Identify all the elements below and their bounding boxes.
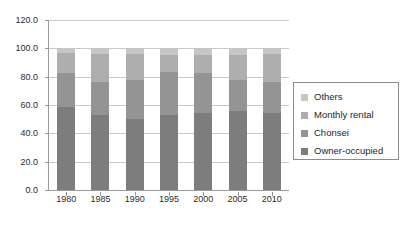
bar-segment <box>229 48 247 55</box>
bar-segment <box>126 80 144 119</box>
bar-segment <box>194 73 212 113</box>
x-axis-tick-label: 1980 <box>56 194 76 204</box>
y-axis-tick-label: 60.0 <box>20 100 38 110</box>
y-axis-tick-label: 0.0 <box>25 185 38 195</box>
bar-segment <box>126 54 144 80</box>
bar-segment <box>194 113 212 190</box>
bar-segment <box>57 107 75 190</box>
bar-2005 <box>229 48 247 190</box>
legend-swatch-icon <box>301 148 308 155</box>
bar-segment <box>160 115 178 191</box>
x-axis-tick-label: 2010 <box>262 194 282 204</box>
legend-swatch-icon <box>301 94 308 101</box>
bar-segment <box>194 48 212 55</box>
stacked-bar-chart: 0.020.040.060.080.0100.0120.0 1980198519… <box>0 0 406 238</box>
x-axis-tick-label: 1985 <box>90 194 110 204</box>
bar-segment <box>229 55 247 79</box>
chart-legend: Others Monthly rental Chonsei Owner-occu… <box>293 82 399 160</box>
bar-segment <box>91 115 109 190</box>
bar-segment <box>91 54 109 82</box>
bar-segment <box>263 54 281 82</box>
x-axis-tick-label: 1990 <box>125 194 145 204</box>
y-axis-tick-label: 100.0 <box>15 43 38 53</box>
bar-segment <box>160 72 178 114</box>
bar-segment <box>229 80 247 112</box>
bar-segment <box>194 55 212 73</box>
y-axis-tick-label: 120.0 <box>15 15 38 25</box>
y-axis-tick-label: 80.0 <box>20 72 38 82</box>
legend-item-label: Owner-occupied <box>314 146 383 156</box>
bar-1995 <box>160 48 178 190</box>
legend-item-others[interactable]: Others <box>301 88 398 106</box>
bar-1990 <box>126 48 144 190</box>
bar-2010 <box>263 48 281 190</box>
legend-swatch-icon <box>301 112 308 119</box>
bar-1980 <box>57 48 75 190</box>
bar-1985 <box>91 48 109 190</box>
legend-item-owner-occupied[interactable]: Owner-occupied <box>301 142 398 160</box>
bar-segment <box>57 53 75 74</box>
legend-item-label: Monthly rental <box>314 110 374 120</box>
bar-2000 <box>194 48 212 190</box>
y-axis-tick-label: 40.0 <box>20 128 38 138</box>
x-axis-tick-label: 2005 <box>228 194 248 204</box>
x-axis-tick-label: 2000 <box>193 194 213 204</box>
x-axis-labels: 1980198519901995200020052010 <box>49 192 288 210</box>
x-axis-tick-label: 1995 <box>159 194 179 204</box>
bar-segment <box>263 113 281 190</box>
legend-item-label: Chonsei <box>314 128 349 138</box>
legend-item-chonsei[interactable]: Chonsei <box>301 124 398 142</box>
y-axis-labels: 0.020.040.060.080.0100.0120.0 <box>0 20 44 190</box>
bar-segment <box>160 55 178 73</box>
legend-swatch-icon <box>301 130 308 137</box>
bar-segment <box>91 82 109 114</box>
bar-segment <box>263 82 281 113</box>
bar-segment <box>229 111 247 190</box>
legend-item-label: Others <box>314 92 343 102</box>
bar-segment <box>57 73 75 107</box>
y-axis-tick <box>45 190 49 191</box>
y-axis-tick-label: 20.0 <box>20 157 38 167</box>
bar-segment <box>126 119 144 190</box>
bar-series-container <box>49 20 288 190</box>
legend-item-monthly-rental[interactable]: Monthly rental <box>301 106 398 124</box>
